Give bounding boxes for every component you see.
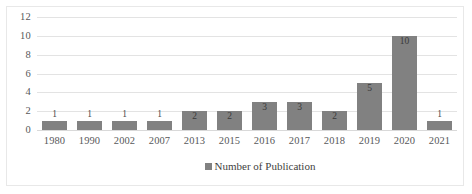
bar-value-label: 3 — [252, 103, 277, 113]
bar-slot: 3 — [247, 17, 282, 130]
bar-value-label: 1 — [147, 110, 172, 120]
x-axis-tick-label: 1980 — [37, 133, 72, 149]
bar-slot: 2 — [177, 17, 212, 130]
bar-slot: 1 — [72, 17, 107, 130]
y-axis-tick-label: 0 — [26, 125, 31, 136]
bar[interactable]: 1 — [42, 121, 67, 130]
bar-value-label: 2 — [182, 112, 207, 122]
bar-value-label: 10 — [392, 37, 417, 47]
bar-value-label: 2 — [217, 112, 242, 122]
bar-slot: 3 — [282, 17, 317, 130]
bar[interactable]: 2 — [322, 111, 347, 130]
bar-value-label: 1 — [112, 110, 137, 120]
bar-series: 1111223325101 — [37, 17, 457, 130]
x-axis-tick-label: 2019 — [352, 133, 387, 149]
bar-value-label: 5 — [357, 84, 382, 94]
x-axis-tick-labels: 1980199020022007201320152016201720182019… — [37, 133, 457, 149]
bar[interactable]: 1 — [112, 121, 137, 130]
bar-value-label: 1 — [77, 110, 102, 120]
y-axis-tick-label: 8 — [26, 49, 31, 60]
bar[interactable]: 1 — [427, 121, 452, 130]
bar[interactable]: 10 — [392, 36, 417, 130]
x-axis-line — [37, 130, 457, 131]
bar[interactable]: 1 — [77, 121, 102, 130]
legend-label: Number of Publication — [215, 161, 316, 172]
legend-entry: Number of Publication — [205, 161, 316, 172]
y-axis-tick-label: 4 — [26, 87, 31, 98]
y-axis-tick-label: 10 — [20, 31, 31, 42]
bar-slot: 5 — [352, 17, 387, 130]
chart-legend: Number of Publication — [7, 161, 465, 172]
bar[interactable]: 3 — [287, 102, 312, 130]
x-axis-tick-label: 2013 — [177, 133, 212, 149]
legend-swatch-icon — [205, 163, 212, 170]
bar-value-label: 1 — [42, 110, 67, 120]
bar[interactable]: 5 — [357, 83, 382, 130]
bar[interactable]: 2 — [217, 111, 242, 130]
y-axis-tick-label: 6 — [26, 68, 31, 79]
bar-slot: 10 — [387, 17, 422, 130]
bar-slot: 2 — [317, 17, 352, 130]
bar-slot: 1 — [107, 17, 142, 130]
x-axis-tick-label: 1990 — [72, 133, 107, 149]
plot-area: 1111223325101 — [37, 17, 457, 130]
x-axis-tick-label: 2018 — [317, 133, 352, 149]
bar-value-label: 3 — [287, 103, 312, 113]
bar-value-label: 2 — [322, 112, 347, 122]
bar-slot: 2 — [212, 17, 247, 130]
y-axis-tick-label: 2 — [26, 106, 31, 117]
y-axis-tick-labels: 024681012 — [7, 17, 35, 130]
bar[interactable]: 2 — [182, 111, 207, 130]
x-axis-tick-label: 2020 — [387, 133, 422, 149]
x-axis-tick-label: 2017 — [282, 133, 317, 149]
x-axis-tick-label: 2016 — [247, 133, 282, 149]
bar-slot: 1 — [422, 17, 457, 130]
bar-slot: 1 — [37, 17, 72, 130]
x-axis-tick-label: 2015 — [212, 133, 247, 149]
bar-chart: 024681012 1111223325101 1980199020022007… — [6, 6, 464, 186]
x-axis-tick-label: 2002 — [107, 133, 142, 149]
bar[interactable]: 1 — [147, 121, 172, 130]
bar[interactable]: 3 — [252, 102, 277, 130]
bar-slot: 1 — [142, 17, 177, 130]
x-axis-tick-label: 2021 — [422, 133, 457, 149]
x-axis-tick-label: 2007 — [142, 133, 177, 149]
bar-value-label: 1 — [427, 110, 452, 120]
y-axis-tick-label: 12 — [20, 12, 31, 23]
